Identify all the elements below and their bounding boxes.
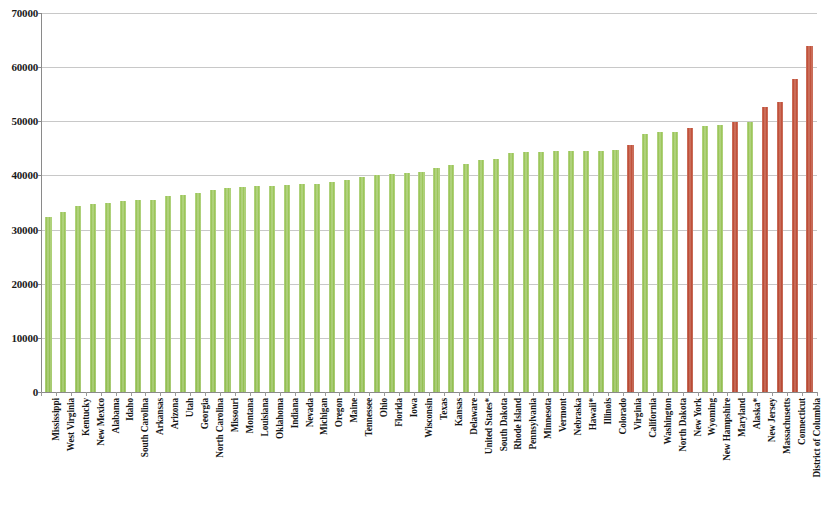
x-axis-category-label: Georgia — [201, 398, 210, 429]
x-axis-category-label: Missouri — [231, 398, 240, 432]
bar — [627, 145, 633, 392]
bars-layer — [41, 13, 817, 392]
x-axis-category-label: Texas — [440, 398, 449, 420]
x-axis-category-label: Nevada — [306, 398, 315, 427]
bar — [672, 132, 678, 392]
x-axis-category-label: Indiana — [291, 398, 300, 428]
x-axis-tick — [787, 392, 788, 396]
y-axis-tick-label: 30000 — [0, 224, 38, 235]
x-axis-tick — [802, 392, 803, 396]
bar — [299, 184, 305, 392]
x-axis-category-label: District of Columbia — [813, 398, 822, 478]
bar — [478, 160, 484, 392]
x-axis-category-label: Oklahoma — [276, 398, 285, 439]
y-axis-tick-label: 20000 — [0, 278, 38, 289]
bar — [642, 134, 648, 392]
x-axis-tick — [698, 392, 699, 396]
bar — [598, 151, 604, 392]
bar — [538, 152, 544, 392]
x-axis-tick — [265, 392, 266, 396]
x-axis-category-label: Illinois — [604, 398, 613, 425]
x-axis-category-label: Washington — [664, 398, 673, 445]
bar — [374, 175, 380, 392]
bar — [284, 185, 290, 392]
x-axis-ticks — [41, 392, 817, 396]
x-axis-tick — [638, 392, 639, 396]
bar — [269, 186, 275, 392]
x-axis-category-label: Florida — [395, 398, 404, 427]
x-axis-category-label: Delaware — [470, 398, 479, 435]
y-axis-tick-label: 0 — [0, 387, 38, 398]
x-axis-category-label: Oregon — [335, 398, 344, 427]
bar — [523, 152, 529, 392]
x-axis-category-label: Nebraska — [574, 398, 583, 435]
x-axis-tick — [563, 392, 564, 396]
x-axis-category-label: Wisconsin — [425, 398, 434, 438]
x-axis-category-label: Maine — [350, 398, 359, 423]
x-axis-category-label: Louisiana — [261, 398, 270, 436]
x-axis-category-label: United States* — [485, 398, 494, 454]
x-axis-tick — [399, 392, 400, 396]
x-axis-category-label: Michigan — [320, 398, 329, 435]
bar — [508, 153, 514, 392]
bar — [553, 151, 559, 392]
bar — [165, 196, 171, 392]
bar — [135, 200, 141, 392]
bar — [105, 203, 111, 393]
bar — [90, 204, 96, 392]
bar — [120, 201, 126, 392]
x-axis-category-label: Mississippi — [52, 398, 61, 441]
x-axis-category-label: Connecticut — [798, 398, 807, 445]
bar — [75, 206, 81, 392]
x-axis-category-label: California — [649, 398, 658, 438]
x-axis-tick — [325, 392, 326, 396]
bar — [747, 122, 753, 392]
x-axis-tick — [145, 392, 146, 396]
x-axis-tick — [384, 392, 385, 396]
bar — [583, 151, 589, 392]
y-axis-tick-label: 50000 — [0, 116, 38, 127]
x-axis-category-label: Kansas — [455, 398, 464, 426]
x-axis-category-label: New York — [694, 398, 703, 436]
x-axis-tick — [668, 392, 669, 396]
x-axis-tick — [593, 392, 594, 396]
bar — [612, 150, 618, 392]
x-axis-category-label: Ohio — [380, 398, 389, 417]
x-axis-category-label: Iowa — [410, 398, 419, 417]
bar — [195, 193, 201, 392]
bar — [239, 187, 245, 392]
x-axis-labels: MississippiWest VirginiaKentuckyNew Mexi… — [41, 398, 817, 508]
bar — [180, 195, 186, 392]
bar — [60, 212, 66, 392]
x-axis-tick — [205, 392, 206, 396]
bar — [344, 180, 350, 392]
x-axis-tick — [295, 392, 296, 396]
bar — [657, 132, 663, 392]
x-axis-tick — [578, 392, 579, 396]
x-axis-tick — [71, 392, 72, 396]
x-axis-tick — [683, 392, 684, 396]
bar — [568, 151, 574, 392]
x-axis-tick — [474, 392, 475, 396]
x-axis-tick — [41, 392, 42, 396]
x-axis-tick — [608, 392, 609, 396]
x-axis-category-label: New Jersey — [768, 398, 777, 442]
x-axis-tick — [310, 392, 311, 396]
x-axis-category-label: Colorado — [619, 398, 628, 434]
x-axis-category-label: Arizona — [171, 398, 180, 429]
bar — [254, 186, 260, 392]
x-axis-tick — [220, 392, 221, 396]
y-axis-tick-label: 60000 — [0, 62, 38, 73]
bar — [687, 128, 693, 392]
x-axis-tick — [131, 392, 132, 396]
x-axis-category-label: Massachusetts — [783, 398, 792, 454]
x-axis-category-label: North Dakota — [679, 398, 688, 452]
x-axis-category-label: Vermont — [559, 398, 568, 432]
bar — [150, 200, 156, 392]
x-axis-tick — [504, 392, 505, 396]
x-axis-tick — [444, 392, 445, 396]
y-axis-tick-label: 10000 — [0, 332, 38, 343]
x-axis-category-label: Pennsylvania — [529, 398, 538, 450]
x-axis-category-label: Virginia — [634, 398, 643, 430]
x-axis-tick — [817, 392, 818, 396]
